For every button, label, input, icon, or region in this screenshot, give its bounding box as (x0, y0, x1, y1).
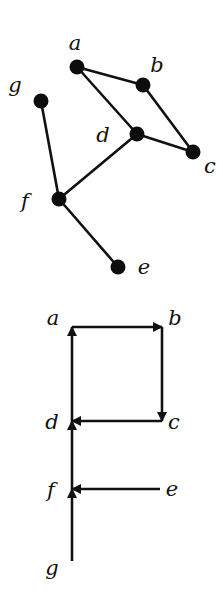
vertex-d (130, 127, 145, 142)
directed-vertex-label-c: c (168, 410, 180, 434)
edge-g-f (41, 101, 59, 199)
directed-vertex-label-a: a (47, 306, 60, 330)
undirected-graph: abcdefg (8, 31, 216, 279)
directed-vertex-label-e: e (166, 477, 178, 501)
vertex-g (34, 94, 49, 109)
vertex-label-f: f (19, 189, 32, 213)
edge-d-c (137, 134, 193, 152)
vertex-label-d: d (96, 123, 109, 147)
vertex-e (111, 260, 126, 275)
vertex-label-b: b (150, 53, 163, 77)
graph-figure: abcdefg abcdefg (0, 0, 223, 615)
directed-vertex-label-d: d (45, 410, 58, 434)
undirected-nodes (34, 60, 201, 275)
directed-graph: abcdefg (45, 306, 182, 580)
edge-b-c (143, 85, 193, 152)
vertex-c (186, 145, 201, 160)
undirected-edges (41, 67, 193, 267)
vertex-label-c: c (204, 154, 216, 178)
edge-f-e (59, 199, 118, 267)
vertex-label-a: a (69, 31, 82, 55)
vertex-label-e: e (138, 255, 150, 279)
directed-vertex-label-g: g (45, 556, 58, 580)
directed-vertex-label-f: f (45, 478, 58, 502)
edge-a-b (77, 67, 143, 85)
directed-arcs (72, 327, 162, 561)
directed-vertex-label-b: b (168, 306, 181, 330)
vertex-a (70, 60, 85, 75)
vertex-f (52, 192, 67, 207)
vertex-label-g: g (8, 73, 21, 97)
vertex-b (136, 78, 151, 93)
